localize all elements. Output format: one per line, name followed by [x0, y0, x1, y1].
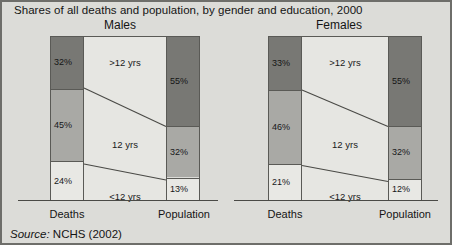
source-label: Source: — [10, 228, 50, 240]
category-label-females-gt12: >12 yrs — [302, 58, 388, 68]
value-females-population-lt12: 12% — [389, 185, 410, 194]
value-females-population-eq12: 32% — [389, 148, 410, 157]
segment-females-deaths-gt12: 33% — [269, 37, 301, 90]
value-males-deaths-gt12: 32% — [51, 58, 72, 67]
segment-females-population-gt12: 55% — [389, 37, 421, 126]
plot-area-males: 32% 45% 24% 55% 32% 13% — [16, 18, 224, 228]
category-label-males-eq12: 12 yrs — [84, 140, 166, 150]
axis-label-females-deaths: Deaths — [252, 208, 318, 220]
source-note: Source: NCHS (2002) — [10, 228, 122, 240]
segment-females-deaths-lt12: 21% — [269, 164, 301, 200]
axis-line-females — [234, 200, 438, 202]
axis-label-males-deaths: Deaths — [34, 208, 100, 220]
figure-container: Shares of all deaths and population, by … — [0, 0, 452, 245]
segment-females-deaths-eq12: 46% — [269, 90, 301, 164]
segment-males-deaths-gt12: 32% — [51, 37, 83, 89]
figure-title: Shares of all deaths and population, by … — [14, 4, 363, 16]
value-males-deaths-lt12: 24% — [51, 177, 72, 186]
bar-females-population[interactable]: 55% 32% 12% — [388, 36, 422, 201]
segment-females-population-lt12: 12% — [389, 179, 421, 200]
value-males-population-lt12: 13% — [167, 185, 188, 194]
value-females-deaths-eq12: 46% — [269, 123, 290, 132]
segment-males-population-gt12: 55% — [167, 37, 199, 126]
category-label-females-eq12: 12 yrs — [302, 140, 388, 150]
bar-males-population[interactable]: 55% 32% 13% — [166, 36, 200, 201]
segment-males-population-lt12: 13% — [167, 178, 199, 201]
axis-line-males — [18, 200, 218, 202]
frame-border-top — [0, 0, 452, 2]
plot-area-females: 33% 46% 21% 55% 32% 12% — [232, 18, 446, 228]
source-value: NCHS (2002) — [50, 228, 122, 240]
segment-females-population-eq12: 32% — [389, 126, 421, 179]
panel-females: Females 33% 46% 21% — [232, 18, 446, 228]
frame-border-left — [0, 0, 2, 245]
segment-males-population-eq12: 32% — [167, 126, 199, 178]
segment-males-deaths-eq12: 45% — [51, 89, 83, 162]
segment-males-deaths-lt12: 24% — [51, 161, 83, 200]
bar-males-deaths[interactable]: 32% 45% 24% — [50, 36, 84, 201]
axis-label-males-population: Population — [144, 208, 224, 220]
bar-females-deaths[interactable]: 33% 46% 21% — [268, 36, 302, 201]
axis-label-females-population: Population — [364, 208, 446, 220]
panel-males: Males 32% 45% 24% — [16, 18, 224, 228]
category-label-males-gt12: >12 yrs — [84, 58, 166, 68]
value-females-deaths-lt12: 21% — [269, 178, 290, 187]
value-males-population-gt12: 55% — [167, 77, 188, 86]
value-males-deaths-eq12: 45% — [51, 121, 72, 130]
value-females-deaths-gt12: 33% — [269, 59, 290, 68]
value-males-population-eq12: 32% — [167, 148, 188, 157]
value-females-population-gt12: 55% — [389, 77, 410, 86]
